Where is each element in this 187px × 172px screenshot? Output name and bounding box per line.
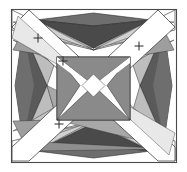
figure-container: Symmetric four-fold geometric crease pat… bbox=[0, 0, 187, 172]
crease-pattern-figure bbox=[0, 0, 187, 172]
pattern-body bbox=[12, 10, 177, 163]
